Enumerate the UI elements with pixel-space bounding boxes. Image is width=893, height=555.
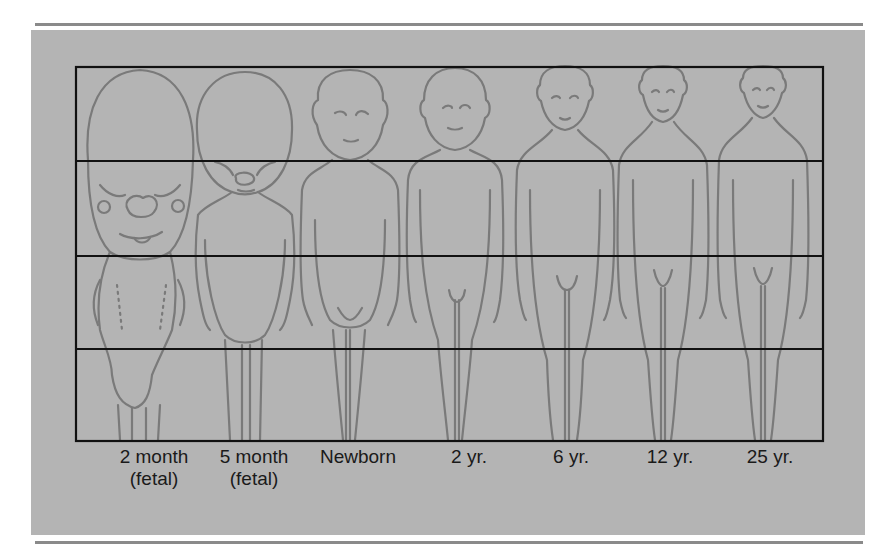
label-25-yr: 25 yr. bbox=[747, 446, 793, 468]
label-5-month-fetal: 5 month (fetal) bbox=[220, 446, 289, 490]
label-6-yr: 6 yr. bbox=[553, 446, 589, 468]
label-2-month-fetal: 2 month (fetal) bbox=[120, 446, 189, 490]
label-newborn: Newborn bbox=[320, 446, 396, 468]
label-12-yr: 12 yr. bbox=[647, 446, 693, 468]
label-2-yr: 2 yr. bbox=[451, 446, 487, 468]
stage-labels: 2 month (fetal) 5 month (fetal) Newborn … bbox=[0, 0, 893, 555]
bottom-rule bbox=[35, 541, 863, 544]
